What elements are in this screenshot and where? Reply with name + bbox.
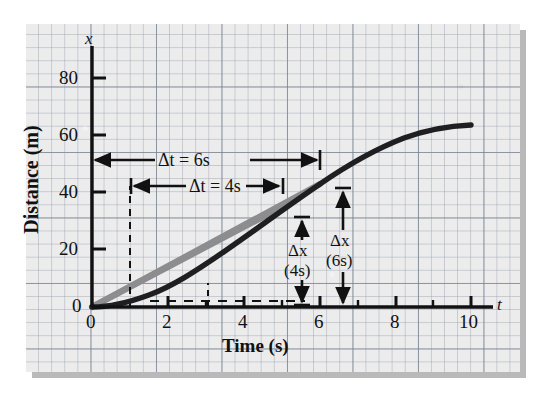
y-tick-label-40: 40 bbox=[59, 182, 78, 201]
x-tick-label-0: 0 bbox=[86, 312, 96, 331]
x-tick-label-2: 2 bbox=[162, 312, 172, 331]
y-tick-label-20: 20 bbox=[59, 239, 78, 258]
x-tick-label-10: 10 bbox=[459, 312, 478, 331]
secant-line-6s bbox=[92, 184, 320, 307]
x-tick-label-4: 4 bbox=[238, 312, 248, 331]
x-tick-label-8: 8 bbox=[390, 312, 400, 331]
x-tick-label-6: 6 bbox=[314, 312, 324, 331]
x-axis-symbol: t bbox=[497, 296, 502, 313]
delta-t-6s-label: Δt = 6s bbox=[158, 150, 210, 171]
delta-x-4s-label-bottom: (4s) bbox=[284, 261, 310, 281]
y-axis-title: Distance (m) bbox=[20, 85, 43, 275]
delta-x-6s-label-top: Δx bbox=[330, 231, 349, 251]
secant-lines bbox=[92, 184, 320, 307]
delta-x-6s-label-bottom: (6s) bbox=[326, 251, 352, 271]
y-tick-label-0: 0 bbox=[72, 296, 82, 315]
y-tick-label-80: 80 bbox=[59, 68, 78, 87]
delta-t-4s-label: Δt = 4s bbox=[189, 176, 241, 197]
y-tick-label-60: 60 bbox=[59, 125, 78, 144]
y-axis-symbol: x bbox=[85, 30, 93, 47]
x-axis-title: Time (s) bbox=[222, 336, 289, 355]
figure-container: x t Distance (m) Time (s) 80 60 40 20 0 … bbox=[0, 0, 543, 403]
y-axis-ticks bbox=[92, 78, 106, 249]
delta-x-4s-label-top: Δx bbox=[288, 241, 307, 261]
